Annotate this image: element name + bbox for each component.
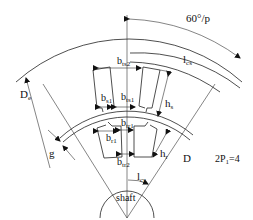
stator-slot-left — [93, 70, 103, 112]
De-dimension — [26, 78, 50, 168]
stator-slot-right-b — [139, 67, 145, 108]
poles-label: 2P1=4 — [215, 153, 240, 166]
gap-label: g — [49, 147, 55, 159]
left-sector-line — [43, 84, 127, 218]
yoke-arc-2 — [130, 62, 220, 92]
btr2-label: btr2 — [117, 156, 130, 169]
bts2-label: bts2 — [117, 55, 131, 68]
bts1-label: bts1 — [121, 91, 135, 104]
lcs-label: lcs — [183, 53, 192, 67]
D-label: D — [183, 152, 191, 164]
rotor-slot-right — [134, 122, 157, 157]
gap-arrow-inner — [63, 146, 75, 160]
hr-label: hr — [160, 147, 169, 161]
hs-label: hs — [165, 97, 174, 111]
hs-dimension — [158, 76, 168, 116]
shaft-label: shaft — [116, 192, 136, 203]
lcr-label: lcr — [137, 170, 146, 184]
motor-sector-diagram: 60°/p lcs De bts2 bs1 bts1 hs btr1 br1 h… — [0, 0, 253, 220]
bs1-label: bs1 — [101, 92, 113, 105]
slot-ext-line — [160, 70, 171, 72]
stator-slot-right — [143, 67, 160, 112]
gap-arrow-outer — [48, 130, 60, 141]
br1-label: br1 — [106, 132, 117, 145]
angle-label: 60°/p — [186, 12, 210, 24]
btr1-label: btr1 — [121, 117, 134, 130]
